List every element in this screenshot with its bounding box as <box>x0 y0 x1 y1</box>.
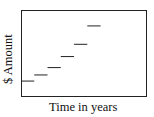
y-axis-label: $ Amount <box>1 34 16 84</box>
x-axis-label: Time in years <box>49 100 117 115</box>
